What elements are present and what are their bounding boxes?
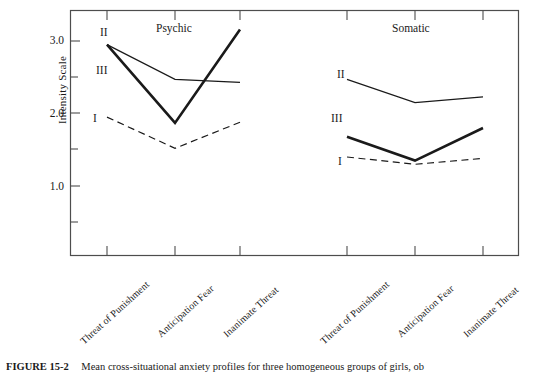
- figure-caption-label: FIGURE 15-2: [6, 361, 69, 372]
- y-major-ticks: [71, 41, 81, 186]
- series-label-somatic-II: II: [337, 68, 345, 80]
- plot-frame: [71, 11, 519, 256]
- data-series-layer: [107, 29, 483, 164]
- series-label-psychic-I: I: [93, 112, 97, 124]
- figure-caption: FIGURE 15-2 Mean cross-situational anxie…: [6, 360, 528, 376]
- series-label-psychic-II: II: [100, 26, 108, 38]
- series-line-somatic-II: [347, 79, 483, 102]
- series-label-somatic-III: III: [331, 112, 343, 124]
- series-label-psychic-III: III: [96, 64, 108, 76]
- series-line-somatic-III: [347, 128, 483, 161]
- panel-caption-somatic: Somatic: [392, 22, 430, 34]
- plot-area: [0, 0, 534, 376]
- figure-caption-text: Mean cross-situational anxiety profiles …: [81, 361, 424, 372]
- x-axis-ticks: [107, 246, 483, 256]
- y-minor-ticks: [71, 77, 79, 222]
- series-label-somatic-I: I: [338, 155, 342, 167]
- series-line-psychic-II: [107, 45, 240, 83]
- x-axis-top-ticks: [107, 11, 483, 21]
- panel-caption-psychic: Psychic: [156, 22, 192, 34]
- figure-container: Intensity Scale 3.0 2.0 1.0: [0, 0, 534, 376]
- series-line-psychic-III: [107, 29, 240, 123]
